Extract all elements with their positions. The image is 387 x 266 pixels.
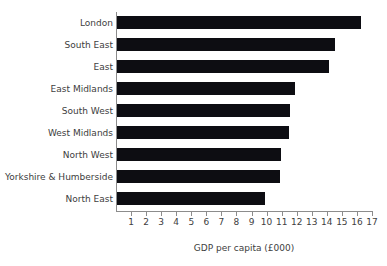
x-axis-ticks: 1234567891011121314151617	[116, 211, 372, 237]
category-label: South West	[0, 100, 113, 122]
bar-row: North East	[0, 188, 387, 210]
bar	[117, 60, 329, 73]
bar	[117, 38, 335, 51]
bar	[117, 82, 295, 95]
x-tick-mark	[267, 211, 268, 216]
x-tick-mark	[297, 211, 298, 216]
x-tick-mark	[372, 211, 373, 216]
x-tick-mark	[161, 211, 162, 216]
bar-rows: LondonSouth EastEastEast MidlandsSouth W…	[0, 12, 387, 211]
category-label: South East	[0, 34, 113, 56]
category-label: West Midlands	[0, 122, 113, 144]
bar-row: North West	[0, 144, 387, 166]
x-tick-mark	[282, 211, 283, 216]
x-tick-mark	[327, 211, 328, 216]
x-tick-mark	[221, 211, 222, 216]
x-tick-mark	[176, 211, 177, 216]
category-label: North West	[0, 144, 113, 166]
x-tick-mark	[206, 211, 207, 216]
x-tick-mark	[131, 211, 132, 216]
bar-row: South East	[0, 34, 387, 56]
category-label: Yorkshire & Humberside	[0, 166, 113, 188]
category-label: London	[0, 12, 113, 34]
category-label: North East	[0, 188, 113, 210]
x-tick-mark	[312, 211, 313, 216]
x-tick-mark	[146, 211, 147, 216]
x-axis-title: GDP per capita (£000)	[116, 243, 372, 253]
bar-row: West Midlands	[0, 122, 387, 144]
x-tick-mark	[357, 211, 358, 216]
bar-row: London	[0, 12, 387, 34]
bar	[117, 16, 361, 29]
bar	[117, 104, 290, 117]
bar-row: Yorkshire & Humberside	[0, 166, 387, 188]
x-tick-mark	[191, 211, 192, 216]
x-tick-mark	[236, 211, 237, 216]
bar-row: South West	[0, 100, 387, 122]
category-label: East	[0, 56, 113, 78]
x-tick-label: 17	[362, 217, 382, 227]
category-label: East Midlands	[0, 78, 113, 100]
bar-row: East	[0, 56, 387, 78]
bar	[117, 170, 280, 183]
gdp-per-capita-bar-chart: LondonSouth EastEastEast MidlandsSouth W…	[0, 0, 387, 266]
bar	[117, 148, 281, 161]
x-tick-mark	[342, 211, 343, 216]
bar	[117, 126, 289, 139]
bar-row: East Midlands	[0, 78, 387, 100]
bar	[117, 192, 265, 205]
x-tick-mark	[252, 211, 253, 216]
